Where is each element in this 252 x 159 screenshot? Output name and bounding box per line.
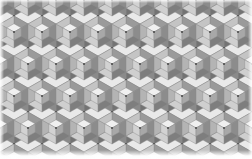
tile-center-dot xyxy=(181,95,183,97)
tile-center-dot xyxy=(111,63,113,65)
tile-center-dot xyxy=(97,95,99,97)
tile-center-dot xyxy=(13,95,15,97)
tile-center-dot xyxy=(223,63,225,65)
tile-center-dot xyxy=(209,95,211,97)
tile-center-dot xyxy=(167,63,169,65)
tile-center-dot xyxy=(139,63,141,65)
tile-center-dot xyxy=(41,95,43,97)
tile-center-dot xyxy=(209,31,211,33)
tile-center-dot xyxy=(69,31,71,33)
tile-center-dot xyxy=(167,127,169,129)
tile-center-dot xyxy=(27,127,29,129)
tile-center-dot xyxy=(41,31,43,33)
tile-center-dot xyxy=(223,127,225,129)
tile-center-dot xyxy=(27,63,29,65)
tile-center-dot xyxy=(195,127,197,129)
tile-center-dot xyxy=(13,31,15,33)
tile-center-dot xyxy=(125,95,127,97)
tile-center-dot xyxy=(83,127,85,129)
tile-center-dot xyxy=(55,127,57,129)
tile-center-dot xyxy=(83,63,85,65)
tile-center-dot xyxy=(153,31,155,33)
tile-center-dot xyxy=(237,95,239,97)
tile-center-dot xyxy=(125,31,127,33)
tile-center-dot xyxy=(195,63,197,65)
tile-center-dot xyxy=(111,127,113,129)
pattern-canvas xyxy=(0,0,252,159)
tile-center-dot xyxy=(139,127,141,129)
tile-center-dot xyxy=(69,95,71,97)
tile-center-dot xyxy=(237,31,239,33)
tile-center-dot xyxy=(97,31,99,33)
tile-center-dot xyxy=(153,95,155,97)
isometric-cube-pattern-svg xyxy=(0,0,252,159)
tile-center-dot xyxy=(181,31,183,33)
tile-center-dot xyxy=(55,63,57,65)
